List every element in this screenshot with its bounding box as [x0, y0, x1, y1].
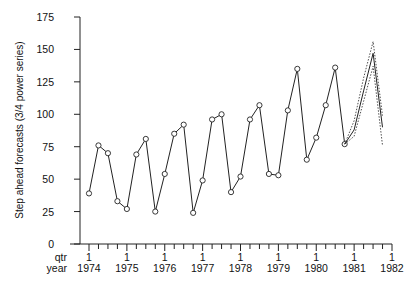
line-chart: 0255075100125150175 11974119751197611977…: [0, 0, 420, 288]
data-point-marker: [86, 191, 91, 196]
data-point-marker: [124, 206, 129, 211]
x-tick-year: 1974: [77, 262, 101, 274]
x-axis-label-year: year: [47, 262, 68, 274]
data-point-marker: [209, 117, 214, 122]
y-tick-label: 50: [42, 173, 54, 185]
data-point-marker: [143, 136, 148, 141]
y-tick-label: 150: [36, 43, 54, 55]
data-point-marker: [228, 190, 233, 195]
data-point-marker: [314, 135, 319, 140]
y-axis-label: Step ahead forecasts (3/4 power series): [14, 41, 25, 218]
data-point-marker: [153, 209, 158, 214]
series-layer: [86, 42, 382, 216]
x-tick-year: 1975: [115, 262, 139, 274]
data-point-marker: [96, 143, 101, 148]
y-tick-label: 75: [42, 141, 54, 153]
x-tick-year: 1976: [153, 262, 177, 274]
data-point-marker: [295, 66, 300, 71]
data-point-marker: [219, 112, 224, 117]
data-point-marker: [181, 122, 186, 127]
data-point-marker: [285, 108, 290, 113]
data-point-marker: [105, 151, 110, 156]
data-point-marker: [191, 210, 196, 215]
data-point-marker: [162, 171, 167, 176]
x-tick-year: 1982: [380, 262, 404, 274]
y-tick-label: 25: [42, 206, 54, 218]
series-observed: [89, 68, 345, 213]
data-point-marker: [257, 103, 262, 108]
x-tick-year: 1979: [267, 262, 291, 274]
y-axis: 0255075100125150175: [36, 11, 80, 250]
series-forecast-lower: [345, 66, 383, 145]
data-point-marker: [115, 199, 120, 204]
data-point-marker: [266, 171, 271, 176]
data-point-marker: [134, 152, 139, 157]
y-tick-label: 125: [36, 76, 54, 88]
data-point-marker: [276, 173, 281, 178]
y-tick-label: 0: [48, 238, 54, 250]
y-tick-label: 175: [36, 11, 54, 23]
data-point-marker: [200, 178, 205, 183]
data-point-marker: [247, 117, 252, 122]
x-tick-year: 1980: [305, 262, 329, 274]
data-point-marker: [238, 174, 243, 179]
x-axis: 1197411975119761197711978119791198011981…: [70, 244, 404, 274]
data-point-marker: [172, 131, 177, 136]
x-tick-year: 1981: [342, 262, 366, 274]
x-tick-year: 1978: [229, 262, 253, 274]
x-tick-year: 1977: [191, 262, 215, 274]
data-point-marker: [323, 103, 328, 108]
y-tick-label: 100: [36, 108, 54, 120]
data-point-marker: [333, 65, 338, 70]
data-point-marker: [304, 157, 309, 162]
